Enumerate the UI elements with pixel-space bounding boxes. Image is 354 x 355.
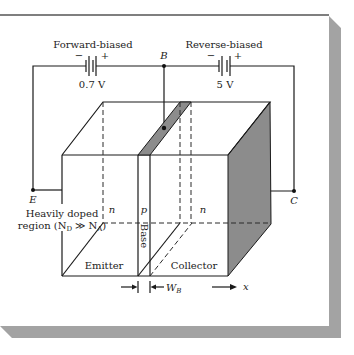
emitter-type-label: n — [109, 204, 115, 215]
collector-terminal-label: C — [290, 195, 298, 206]
bjt-diagram: Forward-biased Reverse-biased − + − + 0.… — [0, 0, 354, 355]
base-node-dot — [162, 64, 166, 68]
emitter-region-label: Emitter — [85, 260, 124, 271]
reverse-voltage-label: 5 V — [217, 79, 235, 90]
reverse-minus-sign: − — [207, 50, 215, 61]
base-contact-dot — [162, 126, 166, 130]
reverse-plus-sign: + — [234, 50, 242, 61]
heavily-doped-label: Heavily doped — [26, 208, 99, 219]
base-type-label: p — [141, 204, 148, 215]
base-terminal-label: B — [159, 50, 167, 61]
forward-biased-label: Forward-biased — [53, 39, 133, 50]
card-background — [0, 15, 329, 326]
emitter-terminal-label: E — [28, 194, 37, 205]
forward-plus-sign: + — [101, 50, 109, 61]
reverse-biased-label: Reverse-biased — [185, 39, 263, 50]
x-axis-label: x — [243, 281, 249, 292]
collector-region-label: Collector — [171, 260, 218, 271]
forward-minus-sign: − — [75, 50, 83, 61]
collector-type-label: n — [200, 204, 206, 215]
collector-node-dot — [292, 189, 296, 193]
forward-voltage-label: 0.7 V — [79, 79, 106, 90]
base-region-label: Base — [139, 224, 150, 248]
emitter-node-dot — [31, 188, 35, 192]
